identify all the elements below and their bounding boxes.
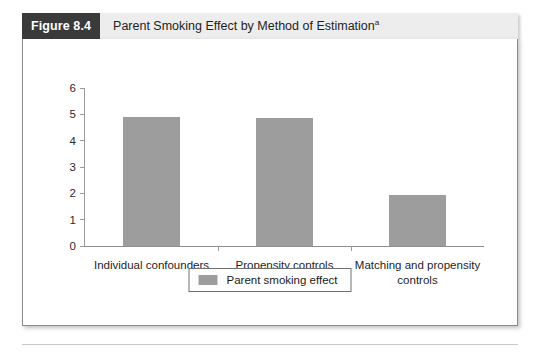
y-axis-tick-mark <box>80 219 85 220</box>
y-axis-tick-mark <box>80 114 85 115</box>
bar <box>389 195 446 246</box>
legend-label: Parent smoking effect <box>226 273 337 287</box>
chart-legend: Parent smoking effect <box>188 268 351 292</box>
plot-area: 0123456Individual confoundersPropensity … <box>85 88 484 246</box>
y-axis-tick-mark <box>80 88 85 89</box>
y-axis-tick-mark <box>80 140 85 141</box>
chart-panel: 0123456Individual confoundersPropensity … <box>22 39 518 326</box>
figure-title-text: Parent Smoking Effect by Method of Estim… <box>113 19 375 33</box>
figure-title-superscript: a <box>375 18 379 27</box>
x-axis-line <box>84 246 484 247</box>
footnote-text <box>24 350 444 359</box>
figure-block: Figure 8.4 Parent Smoking Effect by Meth… <box>22 13 518 326</box>
bar <box>256 118 313 246</box>
figure-title: Parent Smoking Effect by Method of Estim… <box>100 13 518 39</box>
bar <box>123 117 180 246</box>
x-axis-tick-mark <box>351 246 352 251</box>
y-axis-tick-label: 3 <box>70 159 76 175</box>
y-axis-tick-label: 0 <box>70 238 76 254</box>
figure-number-badge: Figure 8.4 <box>22 13 100 39</box>
y-axis-tick-label: 1 <box>70 212 76 228</box>
y-axis-tick-label: 5 <box>70 106 76 122</box>
x-axis-category-label: Matching and propensity controls <box>351 258 484 288</box>
footnote-divider <box>22 344 518 345</box>
figure-header: Figure 8.4 Parent Smoking Effect by Meth… <box>22 13 518 39</box>
y-axis-tick-mark <box>80 193 85 194</box>
y-axis-tick-label: 4 <box>70 133 76 149</box>
y-axis-tick-mark <box>80 246 85 247</box>
y-axis-tick-label: 6 <box>70 80 76 96</box>
y-axis-tick-label: 2 <box>70 185 76 201</box>
x-axis-tick-mark <box>218 246 219 251</box>
y-axis-tick-mark <box>80 167 85 168</box>
legend-color-swatch <box>198 275 217 285</box>
